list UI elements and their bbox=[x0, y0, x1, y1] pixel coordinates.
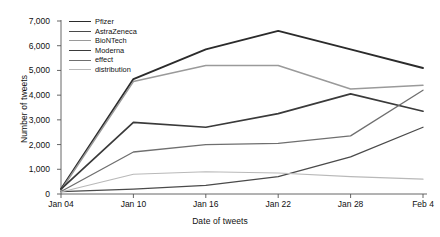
legend-swatch-icon bbox=[69, 31, 91, 32]
legend-label: BioNTech bbox=[95, 36, 127, 46]
line-chart: Number of tweets Date of tweets 01,0002,… bbox=[0, 0, 440, 237]
legend-label: Moderna bbox=[95, 46, 124, 56]
chart-legend: PfizerAstraZenecaBioNTechModernaeffectdi… bbox=[69, 17, 137, 75]
legend-item-distribution[interactable]: distribution bbox=[69, 65, 137, 75]
legend-item-astrazeneca[interactable]: AstraZeneca bbox=[69, 27, 137, 37]
legend-label: distribution bbox=[95, 65, 131, 75]
series-line-distribution bbox=[61, 172, 423, 192]
legend-label: AstraZeneca bbox=[95, 27, 137, 37]
plot-area bbox=[0, 0, 440, 237]
series-line-astrazeneca bbox=[61, 127, 423, 191]
series-line-biontech bbox=[61, 65, 423, 190]
legend-item-pfizer[interactable]: Pfizer bbox=[69, 17, 137, 27]
legend-item-moderna[interactable]: Moderna bbox=[69, 46, 137, 56]
legend-swatch-icon bbox=[69, 60, 91, 61]
legend-label: Pfizer bbox=[95, 17, 114, 27]
legend-swatch-icon bbox=[69, 69, 91, 70]
legend-item-effect[interactable]: effect bbox=[69, 55, 137, 65]
legend-item-biontech[interactable]: BioNTech bbox=[69, 36, 137, 46]
legend-swatch-icon bbox=[69, 21, 91, 22]
legend-label: effect bbox=[95, 55, 113, 65]
legend-swatch-icon bbox=[69, 50, 91, 51]
legend-swatch-icon bbox=[69, 40, 91, 41]
